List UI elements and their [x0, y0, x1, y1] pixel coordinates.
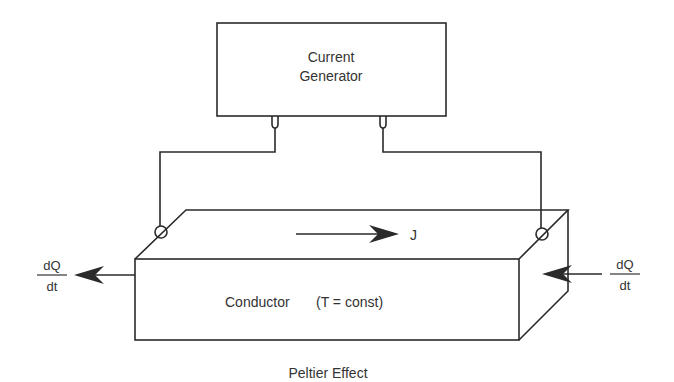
heat-in-denominator: dt [620, 278, 631, 293]
current-label: J [410, 227, 417, 243]
contact-right [536, 228, 548, 240]
wire-left [160, 128, 275, 226]
current-generator: Current Generator [217, 23, 446, 116]
generator-terminal-right [380, 116, 386, 128]
current-arrow: J [296, 225, 417, 243]
conductor-block: Conductor (T = const) [135, 210, 568, 340]
conductor-condition: (T = const) [316, 294, 383, 310]
diagram-caption: Peltier Effect [288, 365, 367, 381]
generator-label-line2: Generator [299, 68, 362, 84]
wire-right [383, 128, 541, 228]
heat-out-numerator: dQ [43, 258, 60, 273]
heat-in-arrow: dQ dt [542, 257, 640, 293]
contact-left [155, 226, 167, 238]
heat-in-numerator: dQ [616, 257, 633, 272]
generator-terminal-left [272, 116, 278, 128]
heat-out-denominator: dt [47, 279, 58, 294]
peltier-diagram: Current Generator Conductor (T = const) … [0, 0, 674, 382]
heat-out-arrow: dQ dt [37, 258, 135, 294]
conductor-label: Conductor [225, 294, 290, 310]
generator-label-line1: Current [308, 49, 355, 65]
